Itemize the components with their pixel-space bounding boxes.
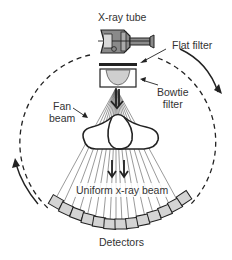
fan-beam-label-line2: beam <box>49 112 75 124</box>
flat-filter-label: Flat filter <box>172 39 212 51</box>
detectors-label: Detectors <box>99 236 144 248</box>
uniform-beam-arrows <box>108 160 128 177</box>
fan-beam-label-line1: Fan <box>49 100 75 112</box>
flat-filter <box>99 63 137 66</box>
patient-outline <box>83 115 158 150</box>
uniform-beam-label: Uniform x-ray beam <box>76 184 168 196</box>
fan-beam-label: Fan beam <box>49 100 75 124</box>
bowtie-filter-label-line2: filter <box>157 98 189 110</box>
bowtie-filter <box>100 69 136 87</box>
xray-tube-icon <box>98 30 154 53</box>
bowtie-filter-label-line1: Bowtie <box>157 86 189 98</box>
xray-tube-label: X-ray tube <box>98 11 146 23</box>
rotation-arrow-left <box>12 158 38 204</box>
bowtie-filter-label: Bowtie filter <box>157 86 189 110</box>
